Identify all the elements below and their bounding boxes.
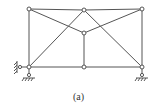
member-E-F — [84, 9, 142, 10]
member-E-C — [84, 10, 142, 67]
node-F — [140, 7, 144, 11]
node-D — [27, 7, 31, 11]
node-A — [27, 65, 31, 69]
node-G — [82, 31, 86, 35]
figure-caption: (a) — [0, 91, 157, 102]
member-D-E — [29, 9, 84, 10]
node-C — [140, 65, 144, 69]
member-D-G — [29, 9, 84, 33]
node-B — [82, 65, 86, 69]
member-A-E — [29, 10, 84, 67]
member-F-G — [84, 9, 142, 33]
node-E — [82, 8, 86, 12]
